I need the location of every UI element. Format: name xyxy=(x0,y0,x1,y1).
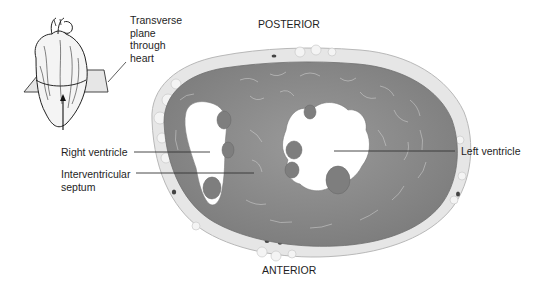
caption-line: through xyxy=(130,39,182,52)
transverse-plane-caption: Transverse plane through heart xyxy=(130,14,182,64)
caption-line: Transverse xyxy=(130,14,182,27)
diagram-artwork xyxy=(0,0,539,283)
interventricular-septum-label: Interventricular septum xyxy=(61,168,130,193)
inset-heart-illustration xyxy=(24,18,126,130)
heart-cross-section xyxy=(152,45,471,261)
caption-line: plane xyxy=(130,27,182,40)
septum-line-2: septum xyxy=(61,181,130,194)
caption-line: heart xyxy=(130,52,182,65)
anterior-label: ANTERIOR xyxy=(262,264,316,277)
septum-line-1: Interventricular xyxy=(61,168,130,181)
right-ventricle-label: Right ventricle xyxy=(61,146,128,159)
posterior-label: POSTERIOR xyxy=(258,18,320,31)
left-ventricle-label: Left ventricle xyxy=(461,145,521,158)
